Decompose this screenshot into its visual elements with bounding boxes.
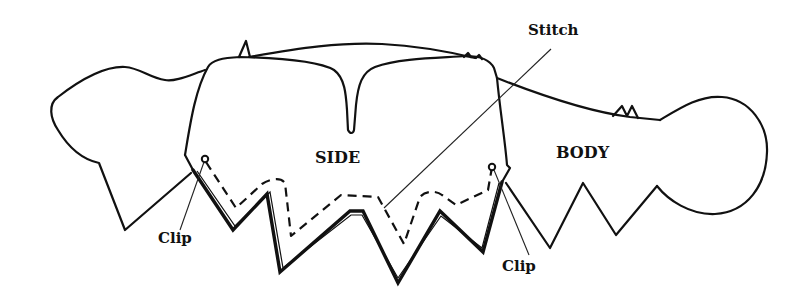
- stitch-line: [206, 162, 492, 244]
- clip-right-leader: [494, 170, 529, 255]
- clip-point-left: [202, 156, 208, 162]
- clip-left-leader: [180, 162, 204, 230]
- stitch-label: Stitch: [528, 23, 578, 38]
- clip-right-label: Clip: [502, 259, 536, 274]
- side-piece-label: SIDE: [315, 150, 360, 166]
- pattern-diagram: [0, 0, 804, 300]
- side-bottom-zigzag: [193, 170, 502, 283]
- body-piece-label: BODY: [556, 145, 609, 161]
- body-notch-left: [239, 41, 250, 57]
- body-top-edge: [249, 44, 475, 58]
- stitch-leader: [384, 49, 551, 208]
- body-bulb-outline: [657, 97, 767, 214]
- body-bottom-zigzag: [506, 183, 657, 248]
- body-left-lobe-outline: [51, 67, 205, 230]
- clip-left-label: Clip: [158, 231, 192, 246]
- side-left-connector: [185, 155, 193, 170]
- clip-point-right: [489, 164, 495, 170]
